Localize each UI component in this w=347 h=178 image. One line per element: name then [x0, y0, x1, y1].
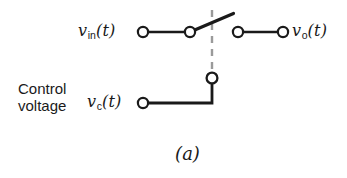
- output-voltage-label: vo(t): [292, 23, 327, 41]
- output-terminal: [278, 27, 288, 37]
- switch-pivot-terminal: [185, 27, 195, 37]
- input-voltage-subscript: in: [87, 29, 96, 41]
- figure-container: vin(t) vo(t) vc(t) Control voltage (a): [0, 0, 347, 178]
- control-input-terminal: [138, 98, 148, 108]
- control-voltage-label: vc(t): [87, 94, 122, 112]
- control-wire: [143, 78, 212, 103]
- input-voltage-symbol: v: [78, 21, 87, 40]
- input-voltage-label: vin(t): [78, 23, 115, 41]
- control-voltage-annotation: Control voltage: [18, 80, 66, 114]
- figure-caption: (a): [0, 143, 347, 164]
- control-node-terminal: [207, 73, 218, 84]
- switch-contact-terminal: [233, 27, 243, 37]
- control-voltage-annotation-line1: Control: [18, 80, 66, 97]
- output-voltage-argument: (t): [308, 21, 328, 40]
- control-voltage-argument: (t): [102, 92, 122, 111]
- output-voltage-symbol: v: [292, 21, 301, 40]
- input-voltage-argument: (t): [96, 21, 116, 40]
- control-voltage-symbol: v: [87, 92, 96, 111]
- input-terminal: [138, 27, 148, 37]
- control-voltage-annotation-line2: voltage: [18, 97, 66, 114]
- figure-caption-text: (a): [147, 143, 200, 164]
